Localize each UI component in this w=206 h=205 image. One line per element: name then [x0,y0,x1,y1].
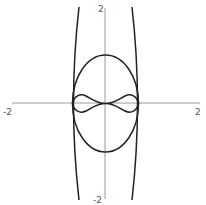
y-tick-max: 2 [98,4,104,14]
plot-area: -2 2 2 -2 [0,0,206,205]
y-tick-min: -2 [93,195,102,205]
x-tick-max: 2 [195,107,201,117]
x-tick-min: -2 [3,107,12,117]
